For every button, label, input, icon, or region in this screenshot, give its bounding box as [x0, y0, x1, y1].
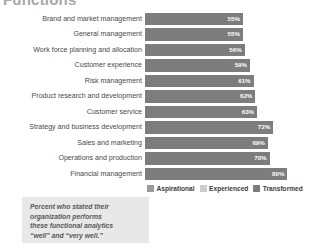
legend-swatch-icon	[253, 185, 260, 192]
footnote-line: these functional analytics	[30, 221, 142, 231]
legend-label: Transformed	[263, 185, 303, 192]
bar-area: 69%54%34%	[145, 137, 323, 149]
bar-rows: Brand and market management55%General ma…	[0, 13, 327, 183]
footnote-text: Percent who stated theirorganization per…	[30, 202, 142, 240]
legend-item-transformed[interactable]: Transformed	[253, 185, 302, 192]
bar-row: Customer service63%45%	[0, 106, 327, 118]
bar-value-label: 70%	[254, 153, 266, 163]
bar-row-label: Customer service	[0, 107, 142, 117]
bar-value-label: 59%	[235, 60, 247, 70]
bar-area: 59%	[145, 59, 323, 71]
bar-segment-transformed: 56%	[145, 44, 245, 56]
bar-segment-transformed: 63%	[145, 106, 257, 118]
bar-segment-transformed: 69%	[145, 137, 268, 149]
bar-segment-transformed: 70%	[145, 152, 270, 164]
bar-row-label: Customer experience	[0, 60, 142, 70]
legend-item-aspirational[interactable]: Aspirational	[147, 185, 195, 192]
legend-swatch-icon	[147, 185, 154, 192]
legend-item-experienced[interactable]: Experienced	[200, 185, 249, 192]
bar-value-label: 55%	[228, 29, 240, 39]
footnote-box: Percent who stated theirorganization per…	[22, 197, 149, 243]
bar-row: Financial management80%67%49%	[0, 168, 327, 180]
bar-segment-transformed: 80%	[145, 168, 287, 180]
bar-area: 56%	[145, 44, 323, 56]
bar-area: 61%	[145, 75, 323, 87]
footnote-line: organization performs	[30, 212, 142, 222]
bar-value-label: 80%	[272, 169, 284, 179]
bar-row: General management55%	[0, 28, 327, 40]
bar-value-label: 61%	[238, 76, 250, 86]
bar-area: 72%54%	[145, 121, 323, 133]
bar-segment-transformed: 55%	[145, 28, 243, 40]
chart-legend: AspirationalExperiencedTransformed	[147, 185, 303, 192]
bar-area: 70%57%35%	[145, 152, 323, 164]
bar-area: 63%45%	[145, 106, 323, 118]
bar-area: 80%67%49%	[145, 168, 323, 180]
bar-row-label: General management	[0, 29, 142, 39]
bar-row-label: Financial management	[0, 169, 142, 179]
bar-segment-transformed: 61%	[145, 75, 254, 87]
bar-row: Sales and marketing69%54%34%	[0, 137, 327, 149]
footnote-line: “well” and “very well.”	[30, 231, 142, 241]
legend-label: Experienced	[209, 185, 248, 192]
bar-value-label: 63%	[242, 107, 254, 117]
bar-row: Risk management61%	[0, 75, 327, 87]
footnote-line: Percent who stated their	[30, 202, 142, 212]
bar-area: 55%	[145, 28, 323, 40]
bar-row-label: Strategy and business development	[0, 122, 142, 132]
chart-title: Functions	[3, 0, 76, 8]
bar-area: 62%43%	[145, 90, 323, 102]
bar-row-label: Sales and marketing	[0, 138, 142, 148]
legend-label: Aspirational	[157, 185, 195, 192]
bar-value-label: 72%	[258, 122, 270, 132]
bar-row-label: Risk management	[0, 76, 142, 86]
bar-value-label: 62%	[240, 91, 252, 101]
legend-swatch-icon	[200, 185, 207, 192]
bar-value-label: 69%	[252, 138, 264, 148]
bar-segment-transformed: 59%	[145, 59, 250, 71]
bar-row: Brand and market management55%	[0, 13, 327, 25]
bar-area: 55%	[145, 13, 323, 25]
bar-row: Product research and development62%43%	[0, 90, 327, 102]
bar-row: Operations and production70%57%35%	[0, 152, 327, 164]
chart-container: Functions Brand and market management55%…	[0, 0, 327, 249]
bar-row: Work force planning and allocation56%	[0, 44, 327, 56]
bar-segment-transformed: 72%	[145, 121, 273, 133]
bar-row: Customer experience59%	[0, 59, 327, 71]
bar-row-label: Work force planning and allocation	[0, 45, 142, 55]
bar-row-label: Product research and development	[0, 91, 142, 101]
bar-segment-transformed: 62%	[145, 90, 255, 102]
bar-value-label: 56%	[229, 45, 241, 55]
bar-row-label: Operations and production	[0, 153, 142, 163]
bar-value-label: 55%	[228, 14, 240, 24]
bar-row-label: Brand and market management	[0, 14, 142, 24]
bar-row: Strategy and business development72%54%	[0, 121, 327, 133]
bar-segment-transformed: 55%	[145, 13, 243, 25]
